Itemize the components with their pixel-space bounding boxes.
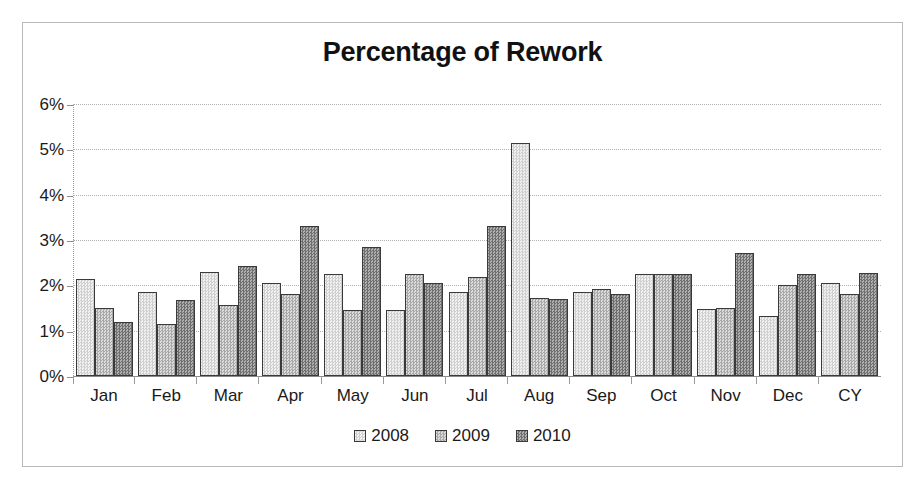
bar-group-feb (135, 104, 197, 376)
category-label-apr: Apr (259, 386, 321, 406)
bar-dec-2009[interactable] (778, 285, 797, 376)
category-tick (259, 376, 321, 384)
bar-apr-2009[interactable] (281, 294, 300, 376)
bar-feb-2009[interactable] (157, 324, 176, 376)
category-label-nov: Nov (695, 386, 757, 406)
bar-aug-2009[interactable] (530, 298, 549, 376)
category-tick (757, 376, 819, 384)
bar-may-2010[interactable] (362, 247, 381, 376)
y-axis-tick-label: 2% (39, 276, 64, 296)
category-tick (197, 376, 259, 384)
bar-apr-2010[interactable] (300, 226, 319, 376)
category-tick (570, 376, 632, 384)
category-label-feb: Feb (135, 386, 197, 406)
category-axis-ticks (73, 376, 881, 384)
bar-group-apr (259, 104, 321, 376)
category-axis-labels: JanFebMarAprMayJunJulAugSepOctNovDecCY (73, 386, 881, 406)
bar-group-oct (632, 104, 694, 376)
bar-oct-2010[interactable] (673, 274, 692, 376)
bar-jul-2010[interactable] (487, 226, 506, 376)
bar-group-nov (695, 104, 757, 376)
legend-label-2010: 2010 (533, 426, 571, 446)
bar-nov-2010[interactable] (735, 253, 754, 376)
bar-jan-2008[interactable] (76, 279, 95, 376)
y-axis-tick-label: 5% (39, 140, 64, 160)
bar-group-may (322, 104, 384, 376)
category-label-cy: CY (819, 386, 881, 406)
bar-jun-2008[interactable] (386, 310, 405, 376)
category-label-jun: Jun (384, 386, 446, 406)
bar-oct-2009[interactable] (654, 274, 673, 376)
y-axis-tick-label: 1% (39, 322, 64, 342)
legend-swatch-2009 (435, 430, 447, 442)
bar-sep-2010[interactable] (611, 294, 630, 376)
category-tick (695, 376, 757, 384)
bar-group-jun (384, 104, 446, 376)
bar-mar-2009[interactable] (219, 305, 238, 376)
category-label-may: May (322, 386, 384, 406)
bar-mar-2010[interactable] (238, 266, 257, 376)
category-label-jul: Jul (446, 386, 508, 406)
category-tick (135, 376, 197, 384)
bar-cy-2008[interactable] (821, 283, 840, 376)
chart-frame: Percentage of Rework 0%1%2%3%4%5%6% JanF… (22, 22, 903, 467)
bar-dec-2008[interactable] (759, 316, 778, 376)
legend-item-2009[interactable]: 2009 (435, 426, 490, 446)
y-axis-tick-label: 0% (39, 367, 64, 387)
y-axis-tick-label: 3% (39, 231, 64, 251)
bar-group-dec (757, 104, 819, 376)
y-axis-tick-label: 6% (39, 95, 64, 115)
bar-jun-2009[interactable] (405, 274, 424, 376)
category-tick (73, 376, 135, 384)
category-label-oct: Oct (632, 386, 694, 406)
legend-swatch-2010 (516, 430, 528, 442)
category-tick (508, 376, 570, 384)
bar-group-cy (819, 104, 881, 376)
category-tick (384, 376, 446, 384)
bar-oct-2008[interactable] (635, 274, 654, 376)
plot-area: 0%1%2%3%4%5%6% (73, 104, 881, 376)
bar-feb-2010[interactable] (176, 300, 195, 376)
chart-screenshot: Percentage of Rework 0%1%2%3%4%5%6% JanF… (0, 0, 918, 485)
legend: 200820092010 (23, 426, 902, 446)
bar-group-mar (197, 104, 259, 376)
bar-sep-2008[interactable] (573, 292, 592, 376)
category-label-dec: Dec (757, 386, 819, 406)
bar-aug-2010[interactable] (549, 299, 568, 376)
bar-nov-2009[interactable] (716, 308, 735, 376)
bar-cy-2010[interactable] (859, 273, 878, 376)
category-tick (446, 376, 508, 384)
bar-cy-2009[interactable] (840, 294, 859, 376)
bar-jun-2010[interactable] (424, 283, 443, 376)
bar-feb-2008[interactable] (138, 292, 157, 376)
category-label-aug: Aug (508, 386, 570, 406)
bar-dec-2010[interactable] (797, 274, 816, 376)
chart-title: Percentage of Rework (23, 37, 902, 68)
category-tick (322, 376, 384, 384)
bar-jan-2010[interactable] (114, 322, 133, 376)
bar-sep-2009[interactable] (592, 289, 611, 376)
bar-aug-2008[interactable] (511, 143, 530, 376)
category-tick (632, 376, 694, 384)
bar-group-jan (73, 104, 135, 376)
legend-item-2010[interactable]: 2010 (516, 426, 571, 446)
bar-may-2009[interactable] (343, 310, 362, 376)
bar-jul-2008[interactable] (449, 292, 468, 376)
bar-jan-2009[interactable] (95, 308, 114, 376)
bar-jul-2009[interactable] (468, 277, 487, 376)
bar-may-2008[interactable] (324, 274, 343, 376)
bars-layer (73, 104, 881, 376)
category-label-sep: Sep (570, 386, 632, 406)
bar-apr-2008[interactable] (262, 283, 281, 376)
legend-label-2009: 2009 (452, 426, 490, 446)
y-axis-tick-label: 4% (39, 186, 64, 206)
category-tick (819, 376, 881, 384)
category-label-jan: Jan (73, 386, 135, 406)
bar-nov-2008[interactable] (697, 309, 716, 376)
legend-item-2008[interactable]: 2008 (354, 426, 409, 446)
category-label-mar: Mar (197, 386, 259, 406)
bar-group-sep (570, 104, 632, 376)
bar-mar-2008[interactable] (200, 272, 219, 376)
bar-group-aug (508, 104, 570, 376)
legend-label-2008: 2008 (371, 426, 409, 446)
